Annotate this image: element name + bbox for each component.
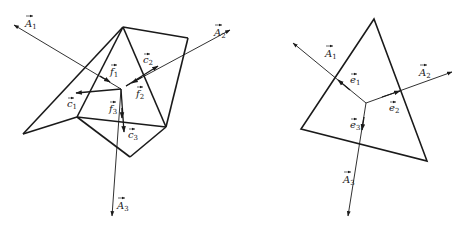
label-A2: A2 (213, 25, 226, 40)
label-f1: f1 (109, 65, 118, 79)
label-e2: e2 (389, 102, 399, 115)
label-A3-right: A3 (342, 172, 355, 187)
svg-text:A1: A1 (324, 48, 337, 61)
svg-text:A1: A1 (24, 18, 37, 31)
svg-text:e3: e3 (350, 119, 360, 132)
svg-text:A3: A3 (116, 200, 129, 213)
svg-text:c3: c3 (128, 129, 138, 142)
vector-f2 (132, 77, 142, 83)
svg-text:f2: f2 (135, 88, 144, 101)
label-e3: e3 (350, 119, 360, 132)
vector-e1 (338, 80, 350, 90)
label-c2: c2 (143, 54, 153, 67)
vector-c2 (126, 66, 158, 86)
svg-text:e1: e1 (350, 74, 360, 87)
label-A1-right: A1 (324, 46, 337, 61)
left-figure: A1 A2 A3 c1 c2 c3 f1 f2 (14, 16, 230, 216)
label-A1: A1 (24, 16, 37, 31)
label-f3: f3 (108, 102, 117, 116)
label-A3: A3 (116, 198, 129, 213)
label-c1: c1 (67, 98, 77, 111)
label-c3: c3 (128, 129, 138, 142)
svg-text:c1: c1 (67, 98, 77, 111)
svg-text:c2: c2 (143, 54, 153, 67)
svg-text:A3: A3 (342, 174, 355, 187)
svg-text:f1: f1 (109, 66, 118, 79)
vector-f1 (100, 76, 110, 82)
diagram-canvas: A1 A2 A3 c1 c2 c3 f1 f2 (0, 0, 461, 226)
svg-text:e2: e2 (389, 102, 399, 115)
right-figure: A1 A2 A3 e1 e2 e3 (293, 19, 452, 216)
left-cell-edges (23, 27, 188, 157)
vector-e2 (382, 91, 400, 97)
vector-A2-right (366, 72, 452, 103)
svg-text:A2: A2 (418, 67, 431, 80)
label-f2: f2 (135, 87, 144, 101)
svg-text:f3: f3 (108, 103, 117, 116)
label-A2-right: A2 (418, 65, 431, 80)
vector-c1 (76, 89, 121, 93)
label-e1: e1 (350, 74, 360, 87)
right-cell-triangle (301, 19, 427, 161)
